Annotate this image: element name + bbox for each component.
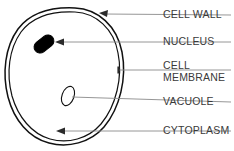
- cell-diagram-page: CELL WALL NUCLEUS CELL MEMBRANE VACUOLE …: [0, 0, 234, 151]
- cell-wall-outline: [5, 8, 124, 145]
- labels-group: CELL WALL NUCLEUS CELL MEMBRANE VACUOLE …: [163, 8, 229, 136]
- label-cytoplasm: CYTOPLASM: [163, 124, 229, 136]
- cell-body-group: [5, 8, 124, 145]
- label-cell-wall: CELL WALL: [163, 8, 222, 20]
- label-vacuole: VACUOLE: [163, 95, 214, 107]
- label-cell-membrane-line2: MEMBRANE: [163, 71, 225, 83]
- cell-diagram-canvas: CELL WALL NUCLEUS CELL MEMBRANE VACUOLE …: [0, 0, 234, 151]
- label-nucleus: NUCLEUS: [163, 35, 215, 47]
- label-cell-membrane-line1: CELL: [163, 59, 190, 71]
